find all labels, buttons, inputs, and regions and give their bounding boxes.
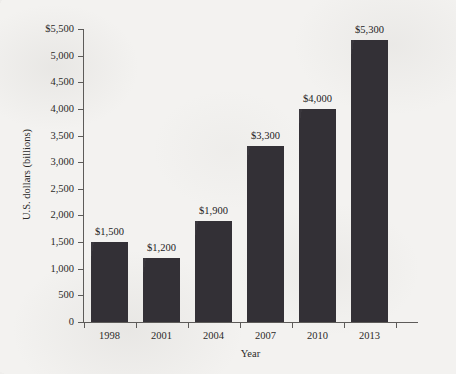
y-axis-tick <box>78 29 83 30</box>
bar-value-label: $3,300 <box>233 131 298 142</box>
x-axis-tick <box>84 323 85 328</box>
y-axis-tick <box>78 215 83 216</box>
y-axis-tick <box>78 189 83 190</box>
y-axis-tick-label: 500 <box>0 290 74 301</box>
chart-figure: U.S. dollars (billions) Year 05001,0001,… <box>0 0 456 374</box>
y-axis-tick-label: 0 <box>0 317 74 328</box>
bar-value-label: $1,900 <box>181 206 246 217</box>
bar-2013 <box>351 40 388 322</box>
x-axis-tick <box>396 323 397 328</box>
y-axis-tick-label: 4,000 <box>0 104 74 115</box>
y-axis-tick <box>78 242 83 243</box>
bar-2007 <box>247 146 284 322</box>
y-axis-tick-label: 3,500 <box>0 131 74 142</box>
y-axis-tick <box>78 162 83 163</box>
y-axis-tick <box>78 82 83 83</box>
bar-1998 <box>91 242 128 322</box>
y-axis-tick <box>78 295 83 296</box>
y-axis-tick-label: 1,000 <box>0 264 74 275</box>
y-axis-tick-label: 3,000 <box>0 157 74 168</box>
y-axis-tick-label: 5,000 <box>0 51 74 62</box>
x-axis-tick-label: 2013 <box>337 331 402 342</box>
bar-value-label: $4,000 <box>285 94 350 105</box>
x-axis-tick <box>136 323 137 328</box>
x-axis-tick <box>188 323 189 328</box>
bar-value-label: $5,300 <box>337 25 402 36</box>
bar-value-label: $1,200 <box>129 243 194 254</box>
y-axis-tick-label: $5,500 <box>0 24 74 35</box>
x-axis-title: Year <box>191 348 311 359</box>
y-axis-tick <box>78 109 83 110</box>
y-axis-tick-label: 2,000 <box>0 210 74 221</box>
x-axis-line <box>83 322 418 323</box>
y-axis-tick <box>78 56 83 57</box>
y-axis-tick-label: 1,500 <box>0 237 74 248</box>
x-axis-tick <box>240 323 241 328</box>
y-axis-tick-label: 2,500 <box>0 184 74 195</box>
y-axis-tick-label: 4,500 <box>0 77 74 88</box>
x-axis-tick <box>344 323 345 328</box>
bar-2001 <box>143 258 180 322</box>
y-axis-line <box>83 29 84 323</box>
y-axis-tick <box>78 322 83 323</box>
y-axis-title: U.S. dollars (billions) <box>21 94 32 254</box>
bar-2004 <box>195 221 232 322</box>
bar-2010 <box>299 109 336 322</box>
y-axis-tick <box>78 269 83 270</box>
x-axis-tick <box>292 323 293 328</box>
bar-value-label: $1,500 <box>77 227 142 238</box>
y-axis-tick <box>78 136 83 137</box>
